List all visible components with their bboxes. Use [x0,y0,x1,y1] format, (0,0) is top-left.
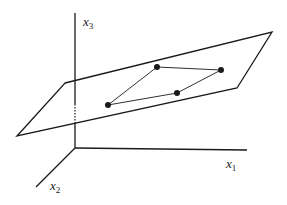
x1-axis-label: x1 [225,156,236,173]
vertex-point [154,64,160,70]
polygon-on-plane [108,67,221,105]
plane [17,32,272,136]
3d-plane-diagram: x3 x1 x2 [0,0,287,205]
x1-axis [75,148,247,150]
vertex-point [218,67,224,73]
x3-axis-label: x3 [82,14,94,31]
x2-axis-label: x2 [49,178,60,195]
vertex-point [105,102,111,108]
polygon-vertices [105,64,224,108]
vertex-point [174,90,180,96]
